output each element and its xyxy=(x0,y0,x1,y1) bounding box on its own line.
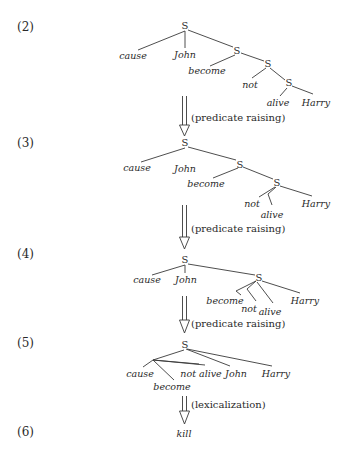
derivation-arrow-4: (lexicalization) xyxy=(180,396,266,424)
leaf-alive: alive xyxy=(267,97,290,108)
leaf-cause: cause xyxy=(123,162,151,173)
leaf-not: not xyxy=(244,198,260,209)
leaf-become: become xyxy=(188,65,226,76)
leaf-harry: Harry xyxy=(261,368,291,379)
tree-2: S S S S cause John become not alive Harr… xyxy=(119,20,331,108)
leaf-john: John xyxy=(173,274,197,285)
leaf-harry: Harry xyxy=(290,295,320,306)
result-kill: kill xyxy=(177,428,192,439)
leaf-cause: cause xyxy=(133,274,161,285)
step-label-2: (2) xyxy=(17,20,34,34)
s-node: S xyxy=(182,137,189,148)
leaf-become: become xyxy=(153,381,191,392)
s-node: S xyxy=(234,45,241,56)
step-label-4: (4) xyxy=(17,247,34,261)
leaf-become: become xyxy=(187,178,225,189)
s-node: S xyxy=(274,177,281,188)
rule-label: (predicate raising) xyxy=(191,112,285,123)
predicate-raising-derivation-diagram: (2) (3) (4) (5) (6) S S S S cause John b… xyxy=(0,0,344,452)
s-node: S xyxy=(265,58,272,69)
s-node: S xyxy=(256,272,263,283)
leaf-not: not xyxy=(241,303,257,314)
leaf-not: not xyxy=(242,79,258,90)
s-node: S xyxy=(286,77,293,88)
step-label-6: (6) xyxy=(17,425,34,439)
step-label-5: (5) xyxy=(17,336,34,350)
leaf-become: become xyxy=(206,295,244,306)
rule-label: (predicate raising) xyxy=(191,318,285,329)
step-label-3: (3) xyxy=(17,136,34,150)
leaf-not-alive: not alive xyxy=(180,368,222,379)
leaf-john: John xyxy=(172,49,196,60)
rule-label: (lexicalization) xyxy=(191,399,266,410)
tree-3: S S S cause John become not alive Harry xyxy=(123,137,331,220)
s-node: S xyxy=(182,20,189,31)
s-node: S xyxy=(182,339,189,350)
s-node: S xyxy=(182,254,189,265)
leaf-alive: alive xyxy=(261,209,284,220)
s-node: S xyxy=(237,159,244,170)
leaf-cause: cause xyxy=(119,50,147,61)
leaf-harry: Harry xyxy=(301,97,331,108)
leaf-cause: cause xyxy=(126,368,154,379)
rule-label: (predicate raising) xyxy=(191,223,285,234)
tree-5: S cause become not alive John Harry xyxy=(126,339,291,392)
leaf-john: John xyxy=(223,368,247,379)
leaf-alive: alive xyxy=(259,306,282,317)
tree-4: S S cause John become not alive Harry xyxy=(133,254,320,317)
leaf-harry: Harry xyxy=(301,198,331,209)
leaf-john: John xyxy=(172,163,196,174)
